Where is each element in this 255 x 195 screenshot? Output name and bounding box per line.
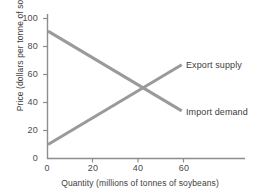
series-line-export-supply <box>48 65 182 145</box>
y-tick-label-20: 20 <box>12 125 38 135</box>
x-tick-label-20: 20 <box>81 163 105 173</box>
x-tick-label-60: 60 <box>172 163 196 173</box>
chart-screenshot: 100 80 60 40 20 0 0 20 40 60 Price (doll… <box>0 0 255 195</box>
series-label-export-supply: Export supply <box>186 60 242 70</box>
x-axis-title: Quantity (millions of tonnes of soybeans… <box>40 178 240 188</box>
y-tick-label-0: 0 <box>12 153 38 163</box>
x-tick-label-40: 40 <box>126 163 150 173</box>
y-axis-title: Price (dollars per tonne of soybeans) <box>15 0 25 115</box>
series-label-import-demand: Import demand <box>186 107 248 117</box>
series-line-import-demand <box>48 31 182 111</box>
x-tick-label-0: 0 <box>35 163 59 173</box>
